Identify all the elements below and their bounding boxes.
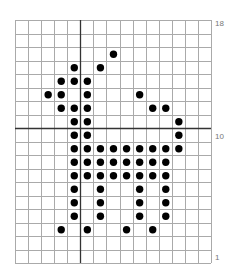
- dot: [123, 226, 130, 233]
- dot: [162, 199, 169, 206]
- dot: [162, 186, 169, 193]
- dot: [97, 172, 104, 179]
- row-label-10: 10: [215, 133, 224, 141]
- dot: [97, 64, 104, 71]
- dot: [97, 199, 104, 206]
- dot: [71, 199, 78, 206]
- dot: [71, 172, 78, 179]
- dot: [84, 159, 91, 166]
- dot: [149, 159, 156, 166]
- dot: [97, 186, 104, 193]
- dot: [110, 172, 117, 179]
- dot: [162, 159, 169, 166]
- dot: [149, 226, 156, 233]
- dot: [123, 172, 130, 179]
- dot: [97, 159, 104, 166]
- dot: [97, 213, 104, 220]
- dot: [162, 213, 169, 220]
- dot: [136, 213, 143, 220]
- dot: [110, 145, 117, 152]
- dot: [84, 91, 91, 98]
- dot: [175, 132, 182, 139]
- dot: [71, 118, 78, 125]
- dot: [110, 51, 117, 58]
- dot: [71, 132, 78, 139]
- dot: [71, 186, 78, 193]
- dot: [71, 145, 78, 152]
- dot: [71, 78, 78, 85]
- dot: [84, 78, 91, 85]
- dot: [149, 105, 156, 112]
- dot: [149, 172, 156, 179]
- dot: [149, 145, 156, 152]
- dot: [162, 145, 169, 152]
- grid-svg: [15, 20, 212, 264]
- dot: [136, 145, 143, 152]
- dot: [84, 226, 91, 233]
- dot: [175, 118, 182, 125]
- dot: [58, 226, 65, 233]
- dot: [58, 91, 65, 98]
- row-label-18: 18: [215, 20, 224, 28]
- dot: [44, 91, 51, 98]
- dot: [162, 105, 169, 112]
- row-label-1: 1: [215, 254, 219, 262]
- dot: [123, 145, 130, 152]
- dot: [110, 159, 117, 166]
- dot: [84, 105, 91, 112]
- dot: [84, 172, 91, 179]
- dot: [175, 145, 182, 152]
- dot: [71, 159, 78, 166]
- dot: [84, 118, 91, 125]
- dot: [84, 132, 91, 139]
- dot: [71, 64, 78, 71]
- dot: [58, 78, 65, 85]
- dot: [136, 172, 143, 179]
- dot-grid-chart: [15, 20, 211, 263]
- dot: [84, 145, 91, 152]
- dot: [136, 199, 143, 206]
- dot: [136, 159, 143, 166]
- dot: [162, 172, 169, 179]
- dot: [97, 145, 104, 152]
- dot: [136, 91, 143, 98]
- dot: [71, 105, 78, 112]
- dot: [123, 159, 130, 166]
- dot: [71, 213, 78, 220]
- dot: [58, 105, 65, 112]
- dot: [136, 186, 143, 193]
